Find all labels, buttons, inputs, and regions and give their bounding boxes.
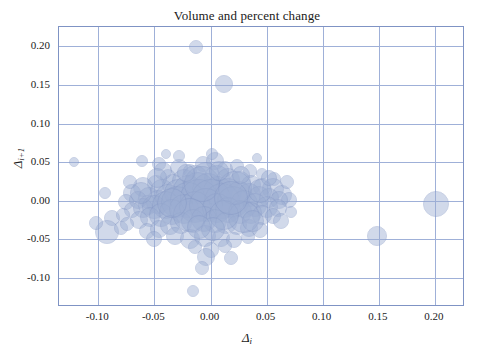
x-axis-label-text: Δ xyxy=(242,330,250,345)
y-tick-label: -0.10 xyxy=(27,271,50,283)
gridline-horizontal xyxy=(59,162,463,163)
y-tick-label: 0.10 xyxy=(31,117,50,129)
scatter-point xyxy=(280,175,294,189)
y-tick-label: 0.00 xyxy=(31,194,50,206)
y-tick-label: -0.05 xyxy=(27,232,50,244)
scatter-point xyxy=(252,153,262,163)
scatter-point xyxy=(214,181,248,215)
x-tick-label: -0.05 xyxy=(142,310,165,322)
gridline-horizontal xyxy=(59,239,463,240)
scatter-point xyxy=(69,157,79,167)
scatter-point xyxy=(206,148,218,160)
scatter-point xyxy=(99,187,111,199)
scatter-point xyxy=(273,213,289,229)
scatter-point xyxy=(367,226,387,246)
scatter-point xyxy=(242,210,264,232)
scatter-point xyxy=(189,40,203,54)
y-tick-label: 0.20 xyxy=(31,39,50,51)
gridline-vertical xyxy=(379,27,380,305)
y-tick-label: 0.15 xyxy=(31,78,50,90)
gridline-vertical xyxy=(323,27,324,305)
scatter-point xyxy=(423,191,449,217)
y-axis-label-subscript: i+1 xyxy=(16,148,26,161)
scatter-point xyxy=(232,166,250,184)
plot-area xyxy=(58,26,464,306)
chart-figure: Volume and percent change -0.10-0.050.00… xyxy=(0,0,494,356)
scatter-point xyxy=(177,164,195,182)
y-tick-label: 0.05 xyxy=(31,155,50,167)
x-tick-label: 0.05 xyxy=(256,310,275,322)
gridline-vertical xyxy=(267,27,268,305)
gridline-vertical xyxy=(435,27,436,305)
x-tick-label: 0.10 xyxy=(312,310,331,322)
scatter-point xyxy=(261,170,277,186)
scatter-point xyxy=(187,285,199,297)
x-tick-label: 0.20 xyxy=(424,310,443,322)
chart-title: Volume and percent change xyxy=(0,8,494,24)
scatter-point xyxy=(146,231,162,247)
gridline-horizontal xyxy=(59,46,463,47)
y-axis-label-text: Δ xyxy=(10,161,25,169)
scatter-point xyxy=(136,155,148,167)
x-tick-label: 0.00 xyxy=(200,310,219,322)
scatter-point xyxy=(147,168,167,188)
gridline-vertical xyxy=(98,27,99,305)
gridline-horizontal xyxy=(59,85,463,86)
scatter-point xyxy=(195,261,209,275)
scatter-point xyxy=(161,149,171,159)
scatter-point xyxy=(224,251,238,265)
y-axis-label: Δi+1 xyxy=(10,118,26,198)
x-axis-label: Δi xyxy=(0,330,494,346)
gridline-horizontal xyxy=(59,124,463,125)
x-axis-label-subscript: i xyxy=(250,336,253,346)
scatter-point xyxy=(120,217,134,231)
x-tick-label: 0.15 xyxy=(368,310,387,322)
scatter-point xyxy=(215,75,233,93)
gridline-horizontal xyxy=(59,278,463,279)
scatter-point xyxy=(173,150,185,162)
x-tick-label: -0.10 xyxy=(86,310,109,322)
scatter-point xyxy=(130,182,152,204)
